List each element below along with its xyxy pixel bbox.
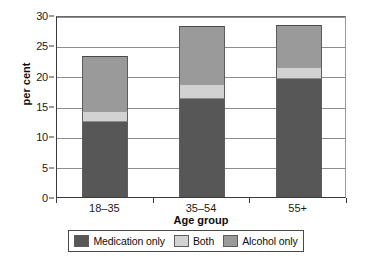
y-axis-tick-mark bbox=[49, 107, 54, 108]
y-axis-tick-label: 25 bbox=[22, 40, 48, 52]
legend-item-alcohol-only: Alcohol only bbox=[223, 235, 297, 247]
legend-item-label: Both bbox=[193, 235, 214, 247]
y-axis-tick-mark bbox=[49, 16, 54, 17]
y-axis-tick-label: 10 bbox=[22, 131, 48, 143]
y-axis-tick-mark bbox=[49, 76, 54, 77]
bar-segment-alcohol-only bbox=[179, 26, 225, 84]
y-axis-tick-label: 20 bbox=[22, 71, 48, 83]
x-axis-title: Age group bbox=[56, 214, 346, 226]
y-axis-tick-mark bbox=[49, 137, 54, 138]
legend-swatch-icon bbox=[223, 235, 238, 247]
legend-item-label: Alcohol only bbox=[242, 235, 297, 247]
stacked-bar-chart: per cent 051015202530 18–3535–5455+ Age … bbox=[0, 0, 369, 264]
x-axis-tick-mark bbox=[346, 198, 347, 203]
bar-segment-medication-only bbox=[179, 99, 225, 197]
y-axis-tick-mark bbox=[49, 167, 54, 168]
x-axis-tick-label: 35–54 bbox=[161, 202, 241, 214]
plot-area bbox=[56, 16, 346, 198]
legend-item-label: Medication only bbox=[93, 235, 164, 247]
bar-segment-both bbox=[276, 67, 322, 79]
y-axis-tick-label: 15 bbox=[22, 101, 48, 113]
legend-item-both: Both bbox=[174, 235, 214, 247]
x-axis-tick-label: 18–35 bbox=[64, 202, 144, 214]
bar-segment-medication-only bbox=[82, 122, 128, 197]
bar-segment-medication-only bbox=[276, 79, 322, 197]
y-axis-tick-mark bbox=[49, 198, 54, 199]
bar-segment-alcohol-only bbox=[82, 56, 128, 111]
legend-swatch-icon bbox=[174, 235, 189, 247]
bar-segment-both bbox=[179, 84, 225, 99]
gridline bbox=[57, 17, 345, 18]
legend-item-medication-only: Medication only bbox=[74, 235, 164, 247]
x-axis-tick-label: 55+ bbox=[258, 202, 338, 214]
y-axis-tick-label: 30 bbox=[22, 10, 48, 22]
y-axis-tick-label: 5 bbox=[22, 162, 48, 174]
bar-segment-both bbox=[82, 111, 128, 122]
legend-swatch-icon bbox=[74, 235, 89, 247]
y-axis-tick-mark bbox=[49, 46, 54, 47]
chart-legend: Medication onlyBothAlcohol only bbox=[68, 230, 304, 252]
bar-segment-alcohol-only bbox=[276, 25, 322, 67]
y-axis-tick-label: 0 bbox=[22, 192, 48, 204]
y-axis-tick-labels: 051015202530 bbox=[18, 16, 48, 198]
